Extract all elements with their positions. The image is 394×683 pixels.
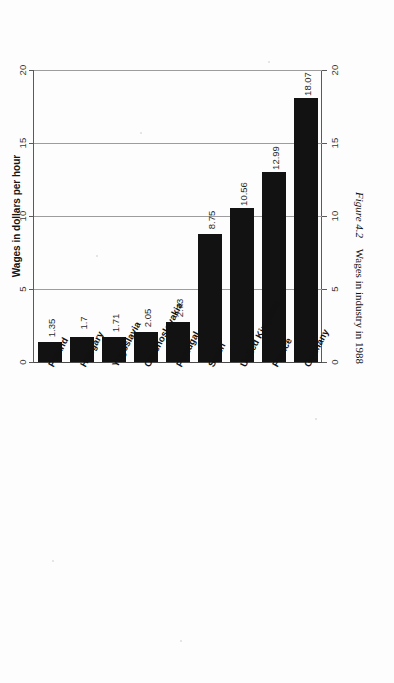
plot-area: 005510101515202018.07Germany12.99France1… — [34, 70, 322, 362]
figure-caption: Figure 4.2 Wages in industry in 1988 — [354, 192, 366, 512]
bar-value-label: 1.71 — [110, 311, 121, 335]
bar-value-label: 2.05 — [142, 306, 153, 330]
axis-tick — [322, 362, 327, 363]
axis-tick-label: 10 — [329, 210, 340, 221]
figure-caption-text: Wages in industry in 1988 — [354, 248, 366, 363]
scan-speckle — [355, 208, 357, 210]
axis-tick — [29, 143, 34, 144]
axis-tick-label: 5 — [329, 286, 340, 291]
bar-value-label: 12.99 — [270, 146, 281, 170]
axis-tick-label: 5 — [17, 286, 28, 291]
axis-tick — [322, 216, 327, 217]
axis-tick-label: 15 — [329, 137, 340, 148]
axis-tick — [29, 289, 34, 290]
bar-value-label: 1.7 — [78, 311, 89, 335]
bar-value-label: 8.75 — [206, 208, 217, 232]
figure-rotated-container: 005510101515202018.07Germany12.99France1… — [14, 32, 344, 652]
bar-value-label: 18.07 — [302, 72, 313, 96]
value-axis-title: Wages in dollars per hour — [11, 154, 22, 276]
axis-tick-label: 0 — [17, 359, 28, 364]
scan-speckle — [315, 418, 317, 420]
gridline — [34, 70, 322, 71]
gridline — [34, 143, 322, 144]
scanned-page: 005510101515202018.07Germany12.99France1… — [0, 0, 394, 683]
axis-tick-label: 20 — [329, 64, 340, 75]
axis-tick — [29, 362, 34, 363]
bar-value-label: 1.35 — [46, 316, 57, 340]
scan-speckle — [268, 61, 270, 63]
scan-speckle — [96, 255, 98, 257]
scan-speckle — [52, 560, 54, 562]
scan-speckle — [140, 132, 142, 134]
scan-speckle — [180, 640, 182, 642]
axis-tick — [322, 70, 327, 71]
axis-tick-label: 15 — [17, 137, 28, 148]
bar-value-label: 10.56 — [238, 181, 249, 205]
axis-tick — [29, 70, 34, 71]
axis-tick-label: 0 — [329, 359, 340, 364]
axis-tick — [29, 216, 34, 217]
axis-tick — [322, 289, 327, 290]
axis-tick — [322, 143, 327, 144]
bar-germany — [294, 98, 318, 362]
figure-number: Figure 4.2 — [354, 192, 366, 238]
figure-caption-container: Figure 4.2 Wages in industry in 1988 — [354, 192, 366, 492]
axis-tick-label: 20 — [17, 64, 28, 75]
chart-canvas: 005510101515202018.07Germany12.99France1… — [14, 32, 344, 652]
